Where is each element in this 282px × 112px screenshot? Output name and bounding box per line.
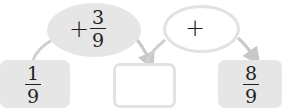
arrow-start-to-step1: [33, 40, 52, 60]
step1-denominator: 9: [92, 30, 104, 50]
step1-numerator: 3: [92, 7, 104, 27]
step1-operator: +: [69, 17, 89, 41]
end-fraction: 8 9: [243, 63, 259, 106]
middle-answer-box[interactable]: [113, 63, 176, 108]
start-fraction: 1 9: [25, 63, 41, 106]
start-box: 1 9: [0, 60, 70, 108]
start-numerator: 1: [27, 63, 39, 83]
start-denominator: 9: [27, 86, 39, 106]
arrow-step2-to-end: [238, 38, 255, 58]
end-denominator: 9: [245, 86, 257, 106]
step1-fraction: 3 9: [90, 7, 106, 50]
arrow-middle-to-step2: [146, 40, 165, 63]
step2-oval[interactable]: +: [163, 5, 240, 53]
step1-oval: + 3 9: [47, 3, 141, 57]
end-box: 8 9: [218, 60, 282, 108]
end-numerator: 8: [245, 63, 257, 83]
step2-operator: +: [185, 16, 205, 40]
